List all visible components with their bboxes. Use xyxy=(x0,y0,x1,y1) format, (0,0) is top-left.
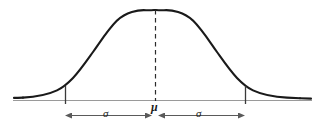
bell-curve-path xyxy=(23,10,300,98)
mean-label-mu: μ xyxy=(151,101,158,113)
sigma-label-right: σ xyxy=(196,108,201,119)
distribution-chart-canvas xyxy=(0,0,324,131)
sigma-label-left: σ xyxy=(103,108,108,119)
normal-distribution-figure: σ σ μ xyxy=(0,0,324,131)
